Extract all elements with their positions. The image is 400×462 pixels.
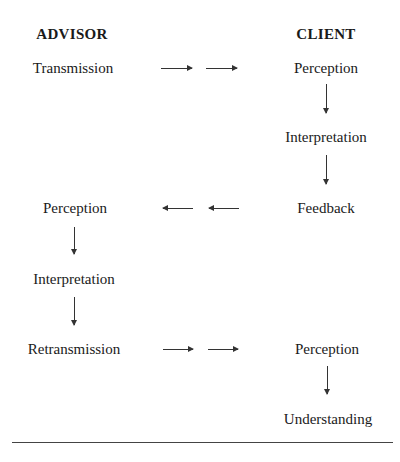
node-client-feedback: Feedback [297, 199, 354, 217]
arrow-down-icon [74, 297, 75, 325]
arrow-left-icon [163, 208, 193, 209]
arrow-down-icon [326, 84, 327, 113]
node-advisor-interpretation: Interpretation [33, 270, 115, 288]
node-advisor-retransmission: Retransmission [28, 340, 121, 358]
arrow-down-icon [327, 366, 328, 394]
node-client-perception: Perception [294, 59, 358, 77]
node-client-understanding: Understanding [284, 410, 372, 428]
arrow-down-icon [74, 227, 75, 254]
node-client-interpretation: Interpretation [285, 128, 367, 146]
client-header: CLIENT [296, 25, 355, 43]
arrow-left-icon [209, 208, 239, 209]
arrow-right-icon [206, 68, 237, 69]
arrow-down-icon [326, 155, 327, 184]
arrow-right-icon [161, 68, 192, 69]
arrow-right-icon [208, 349, 238, 350]
node-advisor-transmission: Transmission [33, 59, 113, 77]
arrow-right-icon [163, 349, 193, 350]
advisor-header: ADVISOR [36, 25, 107, 43]
bottom-rule [12, 442, 393, 443]
node-advisor-perception: Perception [43, 199, 107, 217]
node-client-perception-2: Perception [295, 340, 359, 358]
